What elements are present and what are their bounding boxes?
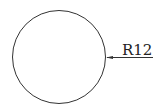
arrowhead-icon <box>106 56 113 59</box>
drawing-canvas: R12 <box>0 0 159 109</box>
radius-label: R12 <box>122 41 152 59</box>
circle <box>13 11 106 104</box>
